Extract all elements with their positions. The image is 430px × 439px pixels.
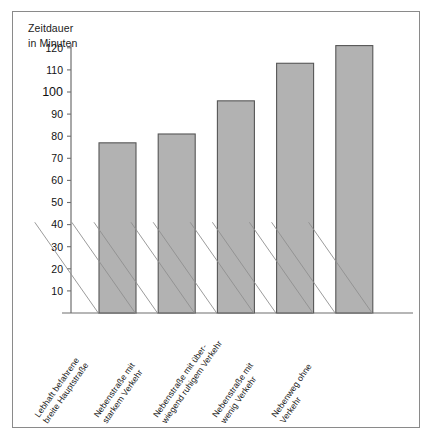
bar bbox=[217, 101, 254, 313]
category-guide-line bbox=[35, 222, 99, 314]
category-label: Nebenstraße mitwenig Verkehr bbox=[209, 360, 263, 426]
y-axis-tick-label: 20 bbox=[51, 263, 63, 275]
bar bbox=[336, 46, 373, 313]
bar bbox=[158, 134, 195, 313]
y-axis-tick-label: 110 bbox=[46, 64, 63, 76]
y-axis-tick-label: 10 bbox=[51, 285, 63, 297]
category-label: Nebenweg ohneVerkehr bbox=[269, 361, 322, 425]
chart-figure: Zeitdauer in Minuten 1020304050607080901… bbox=[0, 0, 430, 439]
y-axis-tick-label: 30 bbox=[51, 241, 63, 253]
category-labels: Lebhaft befahrenebreite HauptstraßeNeben… bbox=[32, 333, 322, 426]
y-axis: 102030405060708090100110120 bbox=[42, 42, 71, 313]
category-label: Lebhaft befahrenebreite Hauptstraße bbox=[32, 354, 90, 425]
category-label-line: Nebenstraße mit über- bbox=[151, 342, 209, 419]
y-axis-tick-label: 120 bbox=[45, 42, 63, 54]
bar bbox=[277, 63, 314, 313]
y-axis-tick-label: 50 bbox=[51, 196, 63, 208]
y-axis-tick-label: 90 bbox=[51, 108, 63, 120]
y-axis-tick-label: 80 bbox=[51, 130, 63, 142]
y-axis-tick-label: 60 bbox=[51, 174, 63, 186]
bar-chart-plot: 102030405060708090100110120 Lebhaft befa… bbox=[0, 0, 430, 439]
y-axis-tick-label: 70 bbox=[51, 152, 63, 164]
bars-group bbox=[99, 46, 373, 313]
category-guide-lines bbox=[35, 222, 373, 314]
y-axis-tick-label: 40 bbox=[51, 218, 63, 230]
y-axis-tick-label: 100 bbox=[42, 85, 63, 99]
category-label: Nebenstraße mitstarkem Verkehr bbox=[92, 360, 146, 425]
